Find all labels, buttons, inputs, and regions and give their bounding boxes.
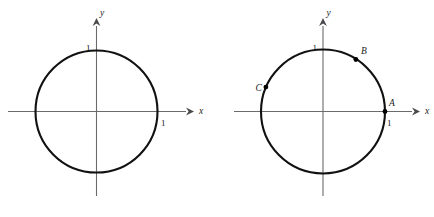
- right-y-axis-label: y: [326, 8, 332, 18]
- point-a-dot: [383, 109, 388, 114]
- right-panel: y x 1 1 A B C: [234, 8, 430, 196]
- right-y-tick-one-label: 1: [313, 43, 318, 53]
- left-panel: y x 1 1: [8, 8, 204, 196]
- right-y-axis-arrow-icon: [319, 18, 327, 26]
- left-y-tick-one-label: 1: [86, 43, 91, 53]
- point-a-label: A: [388, 98, 395, 108]
- point-c-label: C: [256, 83, 263, 93]
- right-x-tick-one-label: 1: [387, 118, 392, 128]
- unit-circle-figure: y x 1 1 y x 1 1 A B C: [0, 0, 434, 217]
- left-y-axis-label: y: [99, 8, 105, 18]
- point-b-dot: [354, 57, 359, 62]
- left-x-axis-label: x: [198, 106, 204, 116]
- right-x-axis-label: x: [424, 106, 430, 116]
- point-c-dot: [264, 85, 269, 90]
- figure-container: y x 1 1 y x 1 1 A B C: [0, 0, 434, 217]
- left-x-axis-arrow-icon: [186, 108, 194, 116]
- left-x-tick-one-label: 1: [161, 118, 166, 128]
- point-b-label: B: [361, 46, 367, 56]
- right-x-axis-arrow-icon: [412, 108, 420, 116]
- left-y-axis-arrow-icon: [93, 18, 101, 26]
